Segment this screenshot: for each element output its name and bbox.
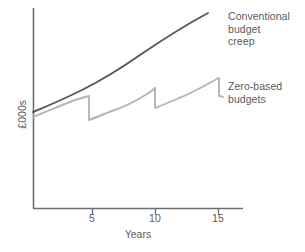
x-tick-label-15: 15 [203,212,233,225]
annotation-conventional-line-2: budget [228,23,290,36]
x-axis-label: Years [108,228,168,241]
y-axis-label: £000s [16,84,29,144]
x-tick-label-5: 5 [77,212,107,225]
annotation-zero-based-budgets: Zero-based budgets [228,80,282,105]
annotation-zero-based-line-1: Zero-based [228,80,282,93]
annotation-conventional-line-3: creep [228,35,290,48]
x-tick-label-10: 10 [140,212,170,225]
annotation-zero-based-line-2: budgets [228,93,282,106]
annotation-conventional-line-1: Conventional [228,10,290,23]
annotation-conventional-budget-creep: Conventional budget creep [228,10,290,48]
chart-figure: £000s Years 5 10 15 Conventional budget … [0,0,305,252]
